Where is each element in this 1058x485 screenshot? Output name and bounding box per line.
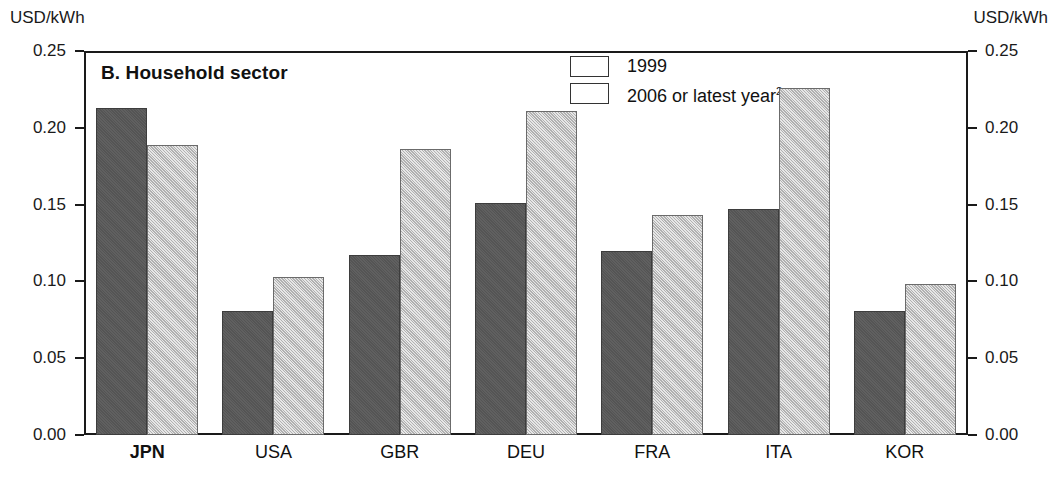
y-axis-unit-left: USD/kWh	[10, 8, 85, 28]
legend-item-2006: 2006 or latest year2	[570, 81, 782, 105]
y-tick-mark-left-0.05	[75, 357, 84, 359]
bar-jpn-1999	[96, 108, 147, 435]
y-tick-mark-right-0.05	[968, 357, 977, 359]
bar-fra-1999	[601, 251, 652, 435]
bar-usa-1999	[222, 311, 273, 435]
y-tick-mark-left-0.15	[75, 204, 84, 206]
bar-kor-1999	[854, 311, 905, 435]
bar-gbr-2006	[400, 149, 451, 435]
y-tick-label-left-0.20: 0.20	[33, 119, 66, 136]
bar-gbr-1999	[349, 255, 400, 435]
chart-legend: 1999 2006 or latest year2	[570, 54, 782, 108]
y-tick-label-left-0.05: 0.05	[33, 349, 66, 366]
x-axis-label-ita: ITA	[715, 442, 841, 462]
bar-ita-2006	[779, 88, 830, 435]
y-tick-label-right-0.10: 0.10	[985, 272, 1018, 289]
bar-jpn-2006	[147, 145, 198, 435]
x-axis-label-fra: FRA	[589, 442, 715, 462]
x-axis-label-gbr: GBR	[337, 442, 463, 462]
x-axis-label-usa: USA	[210, 442, 336, 462]
y-tick-label-left-0.25: 0.25	[33, 42, 66, 59]
y-tick-mark-left-0.25	[75, 50, 84, 52]
chart-container: USD/kWh USD/kWh 0.250.250.200.200.150.15…	[0, 0, 1058, 485]
y-tick-mark-left-0.00	[75, 434, 84, 436]
y-tick-mark-right-0.25	[968, 50, 977, 52]
bar-fra-2006	[652, 215, 703, 435]
x-axis-label-kor: KOR	[842, 442, 968, 462]
legend-label-2006: 2006 or latest year2	[627, 81, 782, 106]
y-tick-label-left-0.10: 0.10	[33, 272, 66, 289]
y-tick-mark-right-0.10	[968, 280, 977, 282]
legend-swatch-2006	[570, 83, 609, 104]
y-tick-label-left-0.15: 0.15	[33, 196, 66, 213]
y-tick-label-right-0.15: 0.15	[985, 196, 1018, 213]
y-tick-mark-right-0.00	[968, 434, 977, 436]
y-tick-label-right-0.00: 0.00	[985, 426, 1018, 443]
bar-ita-1999	[728, 209, 779, 435]
bar-usa-2006	[273, 277, 324, 435]
bar-kor-2006	[905, 284, 956, 435]
y-tick-label-right-0.25: 0.25	[985, 42, 1018, 59]
x-axis-label-deu: DEU	[463, 442, 589, 462]
y-tick-label-right-0.05: 0.05	[985, 349, 1018, 366]
panel-title: B. Household sector	[101, 62, 288, 84]
legend-swatch-1999	[570, 56, 609, 77]
y-tick-mark-right-0.20	[968, 127, 977, 129]
bar-deu-1999	[475, 203, 526, 435]
y-tick-mark-left-0.10	[75, 280, 84, 282]
x-axis-label-jpn: JPN	[84, 442, 210, 462]
legend-item-1999: 1999	[570, 54, 782, 78]
y-axis-unit-right: USD/kWh	[973, 8, 1048, 28]
y-tick-label-right-0.20: 0.20	[985, 119, 1018, 136]
y-tick-mark-right-0.15	[968, 204, 977, 206]
y-tick-mark-left-0.20	[75, 127, 84, 129]
legend-label-2006-text: 2006 or latest year	[627, 86, 776, 106]
y-tick-label-left-0.00: 0.00	[33, 426, 66, 443]
legend-label-1999: 1999	[627, 56, 667, 76]
bar-deu-2006	[526, 111, 577, 435]
